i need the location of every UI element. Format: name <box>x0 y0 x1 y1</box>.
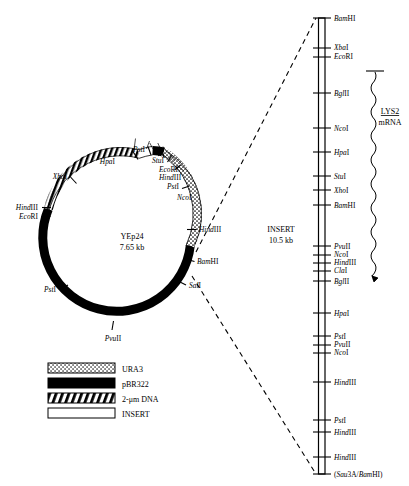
map-label-psti-2: PstI <box>333 416 346 425</box>
site-label-hindiii-right: HindIII <box>198 225 222 234</box>
map-label-stui: StuI <box>334 172 346 181</box>
map-label-xbai: XbaI <box>333 43 349 52</box>
site-label-hindiii-top: HindIII <box>158 173 182 182</box>
plasmid-arc-pbr322 <box>43 209 191 311</box>
legend-label-ura3: URA3 <box>122 365 143 374</box>
map-label-clai: ClaI <box>334 266 348 275</box>
insert-title: INSERT <box>267 225 295 234</box>
site-label-hindiii-left: HindIII <box>15 203 39 212</box>
site-label-psti-left: PstI <box>43 285 56 294</box>
map-label-xhoi: XhoI <box>333 186 349 195</box>
lys2-mrna-arrow: LYS2 mRNA <box>366 71 402 276</box>
map-label-sau3a-bamhi: (Sau3A/BamHI) <box>334 470 383 479</box>
legend-label-2um: 2-μm DNA <box>122 395 159 404</box>
plasmid-circle: YEp24 7.65 kb HpaI PstI StuI EcoRI HindI… <box>15 139 222 344</box>
map-label-bamhi-2: BamHI <box>334 201 356 210</box>
site-label-ecori-left: EcoRI <box>18 212 38 221</box>
site-label-xbai: XbaI <box>52 172 68 181</box>
insert-size: 10.5 kb <box>269 236 293 245</box>
map-label-bglii-2: BglII <box>334 277 350 286</box>
legend-label-insert: INSERT <box>122 410 150 419</box>
plasmid-size: 7.65 kb <box>120 243 145 252</box>
site-label-ncoi: NcoI <box>176 193 192 202</box>
expansion-connector-lines <box>192 18 316 474</box>
legend-swatch-pbr322 <box>48 378 115 388</box>
site-label-bamhi-right: BamHI <box>197 257 219 266</box>
map-label-hpai-1: HpaI <box>333 148 350 157</box>
map-label-ncoi-3: NcoI <box>333 348 349 357</box>
plasmid-figure: YEp24 7.65 kb HpaI PstI StuI EcoRI HindI… <box>0 0 409 486</box>
site-label-hpai: HpaI <box>99 157 116 166</box>
site-label-sali: SalI <box>189 281 201 290</box>
legend-swatch-2um <box>48 393 115 403</box>
map-label-ncoi-1: NcoI <box>333 124 349 133</box>
map-label-ecori: EcoRI <box>333 52 353 61</box>
legend-label-pbr322: pBR322 <box>122 380 149 389</box>
map-label-hpai-2: HpaI <box>333 309 350 318</box>
mrna-label: mRNA <box>378 118 401 127</box>
plasmid-name: YEp24 <box>120 232 143 241</box>
map-label-hindiii-2: HindIII <box>333 378 357 387</box>
mrna-wavy-line <box>371 72 376 276</box>
site-label-psti-top: PstI <box>132 145 145 154</box>
legend-swatch-insert <box>48 408 115 418</box>
mrna-gene-label: LYS2 <box>381 107 399 116</box>
map-label-hindiii-4: HindIII <box>333 453 357 462</box>
map-label-bamhi-1: BamHI <box>334 14 356 23</box>
map-label-bglii-1: BglII <box>334 89 350 98</box>
site-label-psti-up: PstI <box>166 182 179 191</box>
insert-caption: INSERT 10.5 kb <box>267 225 295 245</box>
site-label-stui: StuI <box>152 156 164 165</box>
site-label-pvuii: PvuII <box>104 334 122 343</box>
legend-swatch-ura3 <box>48 363 115 373</box>
map-label-hindiii-3: HindIII <box>333 428 357 437</box>
legend: URA3 pBR322 2-μm DNA INSERT <box>48 363 159 419</box>
